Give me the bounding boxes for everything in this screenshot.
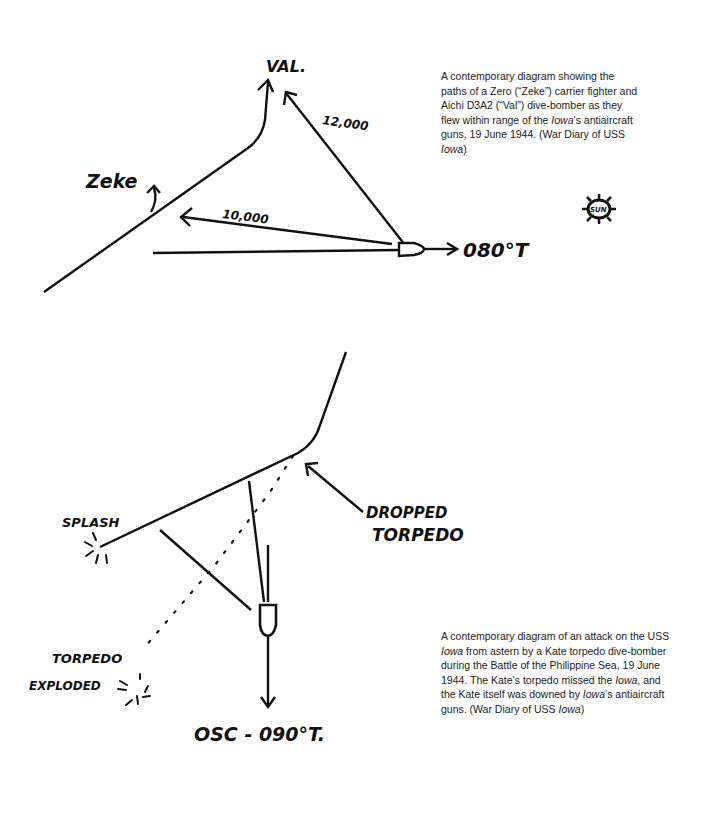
explosion-burst-icon [118,674,150,705]
caption-text: ) [463,143,467,155]
zeke-path-arrowhead [258,80,273,92]
ship-track [153,250,400,253]
zeke-turn-arrow [151,188,155,212]
ship-name: Iowa [551,114,573,126]
torpedo-exploded-label-1: TORPEDO [52,651,122,666]
torpedo-exploded-label-2: EXPLODED [29,679,101,693]
kate-path [100,352,346,547]
dropped-torpedo-arrow [308,466,363,512]
ship-name: Iowa [558,703,580,715]
ship-icon [260,605,276,636]
heading-label: OSC - 090°T. [194,723,325,745]
torpedo-label: TORPEDO [372,525,464,545]
ship-name: Iowa [615,674,637,686]
ship-name: Iowa [583,688,605,700]
figure2-diagram: SPLASH DROPPED TORPEDO TORPEDO EXPLODED … [29,352,464,745]
ship-name: Iowa [441,645,463,657]
splash-burst-icon [85,533,107,563]
figure2-caption: A contemporary diagram of an attack on t… [441,629,673,717]
heading-label: 080°T [463,238,530,262]
figure1-caption: A contemporary diagram showing the paths… [441,69,641,157]
dropped-label: DROPPED [366,504,447,522]
aa-fire-line-1 [160,530,251,610]
val-label: VAL. [266,57,306,76]
caption-text: ) [581,703,585,715]
aa-fire-line-2 [249,481,264,602]
svg-text:SUN: SUN [590,206,607,214]
sun-icon: SUN [582,194,616,224]
val-range-label: 12,000 [322,113,370,133]
splash-label: SPLASH [62,515,120,530]
ship-icon [399,243,424,256]
caption-text: A contemporary diagram of an attack on t… [441,630,669,642]
zeke-range-line [183,217,392,244]
ship-name: Iowa [441,143,463,155]
zeke-label: Zeke [85,170,138,192]
